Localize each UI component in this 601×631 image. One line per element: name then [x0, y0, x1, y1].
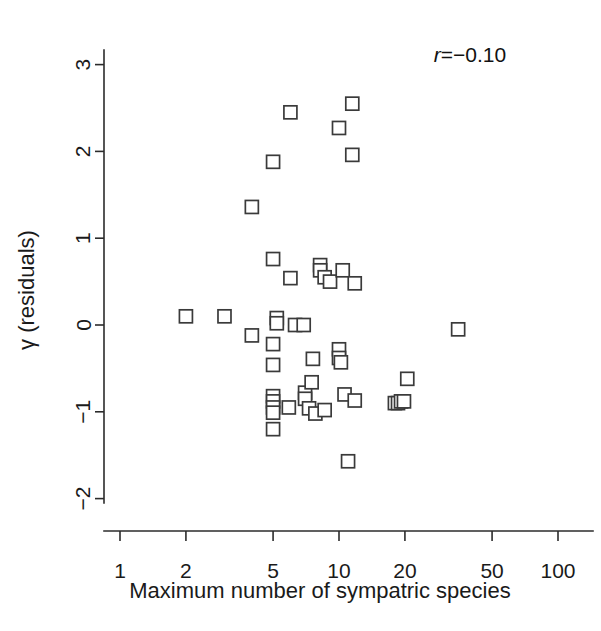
x-axis: 125102050100 [104, 531, 593, 582]
y-axis-tick-label: 2 [72, 146, 95, 158]
x-axis-tick-label: 100 [540, 559, 575, 582]
scatter-point [452, 323, 465, 336]
annotation-layer: r=−0.10 [434, 43, 506, 66]
scatter-point [179, 310, 192, 323]
plot-canvas: −2−10123 125102050100 Maximum number of … [0, 0, 601, 631]
scatter-point [267, 406, 280, 419]
scatter-point [333, 121, 346, 134]
scatter-point [245, 329, 258, 342]
scatter-point [267, 358, 280, 371]
scatter-point [267, 423, 280, 436]
y-axis-title: γ (residuals) [14, 230, 39, 350]
scatter-point [401, 372, 414, 385]
y-axis-tick-label: 0 [72, 319, 95, 331]
y-axis-tick-label: −1 [72, 400, 95, 424]
scatter-point [267, 253, 280, 266]
scatter-point [324, 275, 337, 288]
scatter-point [346, 148, 359, 161]
correlation-annotation: r=−0.10 [434, 43, 506, 66]
scatter-plot-figure: −2−10123 125102050100 Maximum number of … [0, 0, 601, 631]
scatter-point [297, 319, 310, 332]
scatter-point [348, 394, 361, 407]
x-axis-title: Maximum number of sympatric species [129, 578, 510, 603]
y-axis-tick-label: 3 [72, 59, 95, 71]
scatter-point [305, 376, 318, 389]
scatter-point [318, 404, 331, 417]
scatter-point [334, 356, 347, 369]
scatter-point [348, 277, 361, 290]
scatter-point [270, 317, 283, 330]
x-axis-tick-label: 1 [114, 559, 126, 582]
scatter-point [267, 155, 280, 168]
scatter-point [267, 338, 280, 351]
scatter-point [306, 352, 319, 365]
correlation-value: =−0.10 [441, 43, 506, 66]
scatter-point [336, 264, 349, 277]
y-axis: −2−10123 [72, 50, 105, 511]
y-axis-tick-label: −2 [72, 487, 95, 511]
y-axis-tick-label: 1 [72, 232, 95, 244]
scatter-point [346, 97, 359, 110]
scatter-point [282, 401, 295, 414]
data-points-layer [179, 97, 464, 468]
scatter-point [284, 272, 297, 285]
scatter-point [218, 310, 231, 323]
scatter-point [342, 455, 355, 468]
scatter-point [397, 395, 410, 408]
scatter-point [245, 200, 258, 213]
scatter-point [284, 106, 297, 119]
